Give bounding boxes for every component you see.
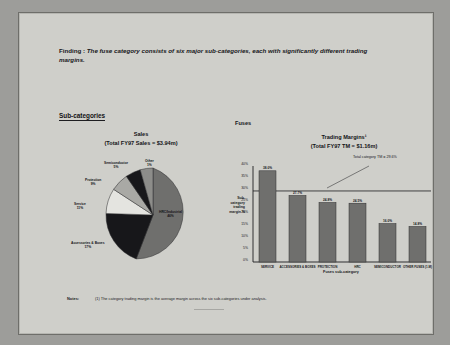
y-tick-35: 35% xyxy=(234,174,248,178)
bar-service xyxy=(259,171,276,262)
pie-label-other: Other 1% xyxy=(145,159,154,168)
bar-chart-title: Trading Margins¹ (Total FY97 TM = $1.16m… xyxy=(269,133,419,151)
annotation-leader-line xyxy=(327,166,369,188)
bar-protection xyxy=(319,203,336,263)
y-tick-25: 25% xyxy=(234,198,248,202)
y-tick-15: 15% xyxy=(234,222,248,226)
pie-chart-title: Sales (Total FY97 Sales = $3.94m) xyxy=(77,130,205,148)
x-tick-protection: PROTECTION xyxy=(311,265,344,269)
sales-pie-chart: HRC/Industrial 46% Accessories & Boxes 1… xyxy=(75,159,207,271)
pie-label-accessories-boxes: Accessories & Boxes 17% xyxy=(71,241,105,250)
y-tick-10: 10% xyxy=(234,234,248,238)
footnote-label: Notes: xyxy=(67,296,95,301)
finding-statement: Finding : The fuse category consists of … xyxy=(59,46,389,64)
bar-value-hrc: 24.5% xyxy=(343,199,372,203)
bar-value-semiconductor: 16.0% xyxy=(373,219,402,223)
pie-title-line2: (Total FY97 Sales = $3.94m) xyxy=(77,139,205,148)
finding-text: The fuse category consists of six major … xyxy=(59,47,367,63)
y-tick-0: 0% xyxy=(234,258,248,262)
bar-x-axis-title: Fuses sub-category xyxy=(261,270,421,274)
bar-accessories-boxes xyxy=(289,196,306,263)
bar-value-protection: 24.8% xyxy=(313,198,342,202)
pie-label-semiconductor: Semiconductor 5% xyxy=(104,161,128,170)
bar-hrc xyxy=(349,203,366,262)
bar-semiconductor xyxy=(379,224,396,262)
y-tick-40: 40% xyxy=(234,162,248,166)
footnote: Notes:(1) The category trading margin is… xyxy=(67,296,397,301)
bar-value-accessories: 27.7% xyxy=(283,191,312,195)
bar-value-service: 38.0% xyxy=(253,166,282,170)
slide-page: Finding : The fuse category consists of … xyxy=(18,12,434,335)
y-tick-20: 20% xyxy=(234,210,248,214)
bar-title-line2: (Total FY97 TM = $1.16m) xyxy=(269,142,419,151)
pie-label-protection: Protection 9% xyxy=(85,178,101,187)
pie-svg xyxy=(75,159,207,271)
pie-title-line1: Sales xyxy=(77,130,205,139)
footnote-text: (1) The category trading margin is the a… xyxy=(95,296,267,301)
pie-label-hrc-industrial: HRC/Industrial 46% xyxy=(159,210,182,219)
trading-margins-bar-chart: Total category TM = 29.6% Sub-category t… xyxy=(223,158,439,283)
pie-label-service: Service 11% xyxy=(74,202,86,211)
page-footer-mark xyxy=(194,305,224,310)
x-tick-other-fuses: OTHER FUSES (1.M) xyxy=(399,265,436,269)
bar-title-line1: Trading Margins¹ xyxy=(269,133,419,142)
finding-label: Finding : xyxy=(59,47,87,54)
y-tick-5: 5% xyxy=(234,246,248,250)
section-heading: Sub-categories xyxy=(59,112,105,121)
reference-line-annotation: Total category TM = 29.6% xyxy=(353,155,397,159)
fuses-panel-label: Fuses xyxy=(235,120,251,126)
y-tick-30: 30% xyxy=(234,186,248,190)
bar-value-other-fuses: 14.8% xyxy=(403,222,432,226)
bar-other-fuses xyxy=(409,227,426,263)
